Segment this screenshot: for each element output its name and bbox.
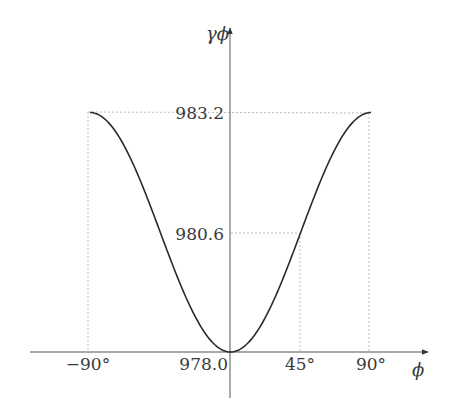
y-axis-label: γϕ bbox=[206, 23, 229, 44]
x-axis-label: ϕ bbox=[412, 359, 424, 380]
chart: γϕ ϕ 983.2 980.6 978.0 −90° 45° 90° bbox=[0, 0, 456, 416]
x-tick-neg90: −90° bbox=[66, 354, 110, 374]
y-tick-978-0: 978.0 bbox=[179, 354, 228, 374]
y-tick-983-2: 983.2 bbox=[175, 103, 224, 123]
x-tick-45: 45° bbox=[285, 354, 315, 374]
guide-lines bbox=[88, 112, 369, 352]
guide-983-2 bbox=[88, 112, 369, 113]
x-tick-90: 90° bbox=[356, 354, 386, 374]
y-tick-980-6: 980.6 bbox=[175, 224, 224, 244]
